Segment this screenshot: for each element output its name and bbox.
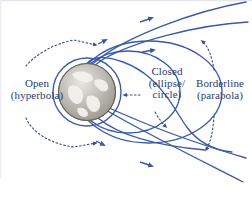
label-borderline-line2: (parabola): [188, 90, 252, 102]
direction-arrow-ellipse-bottom: [96, 141, 104, 145]
label-open-line1: Open: [4, 78, 70, 90]
figure-top-border: [0, 0, 252, 1]
direction-arrow-outer-hyperbola: [140, 18, 152, 22]
label-open-line2: (hyperbola): [4, 90, 70, 102]
label-borderline-line1: Borderline: [188, 78, 252, 90]
direction-arrow-lower-hyperbola: [140, 162, 152, 166]
label-borderline: Borderline (parabola): [188, 78, 252, 101]
pointer-open-upper: [26, 40, 96, 66]
direction-arrow-ellipse-top: [98, 40, 106, 44]
figure-left-border: [0, 0, 1, 178]
label-open: Open (hyperbola): [4, 78, 70, 101]
direction-arrow-inner-hyperbola: [142, 50, 154, 52]
orbit-diagram-figure: Open (hyperbola) Closed (ellipse/ circle…: [0, 0, 252, 200]
pointer-open-lower: [26, 118, 96, 147]
label-closed-line1: Closed: [138, 66, 196, 78]
